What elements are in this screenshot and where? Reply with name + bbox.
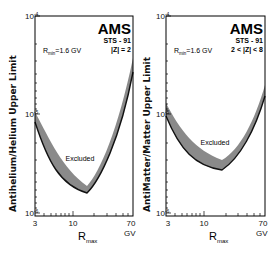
left-ams-title: AMS (98, 20, 131, 37)
right-charge-label: 2 < |Z| < 8 (231, 46, 263, 54)
right-limit-band (166, 85, 265, 170)
left-limit-band (35, 58, 133, 193)
left-x-axis-label: Rmax (78, 230, 97, 244)
right-x-axis-label: Rmax (209, 230, 228, 244)
right-x-unit: GV (256, 229, 268, 238)
figure: Antihelium/Helium Upper Limit 10-4 10-5 … (0, 0, 277, 259)
left-excluded-label: Excluded (66, 155, 95, 162)
right-sts-label: STS - 91 (235, 37, 263, 44)
left-panel: Antihelium/Helium Upper Limit 10-4 10-5 … (8, 11, 136, 244)
right-panel: AntiMatter/Matter Upper Limit 10-4 10-5 … (142, 11, 268, 244)
left-x-ticks (44, 211, 128, 216)
left-y-axis-label: Antihelium/Helium Upper Limit (8, 55, 18, 212)
right-x-ticks (175, 211, 260, 216)
left-x-unit: GV (124, 229, 136, 238)
left-charge-label: |Z| = 2 (111, 46, 131, 54)
right-xtick-3: 3 (166, 219, 171, 228)
left-ytick-top: 10-4 (25, 11, 39, 21)
right-rmin-annotation: Rmin=1.6 GV (174, 47, 213, 56)
left-limit-edge (35, 72, 133, 193)
right-ams-title: AMS (230, 20, 263, 37)
right-excluded-label: Excluded (201, 139, 230, 146)
left-xtick-3: 3 (33, 219, 38, 228)
left-xtick-10: 10 (69, 219, 78, 228)
right-ytick-top: 10-4 (156, 11, 170, 21)
left-xtick-70: 70 (127, 219, 136, 228)
left-rmin-annotation: Rmin=1.6 GV (43, 47, 82, 56)
right-y-axis-label: AntiMatter/Matter Upper Limit (142, 56, 152, 212)
left-sts-label: STS - 91 (103, 37, 131, 44)
right-xtick-70: 70 (259, 219, 268, 228)
right-xtick-10: 10 (200, 219, 209, 228)
